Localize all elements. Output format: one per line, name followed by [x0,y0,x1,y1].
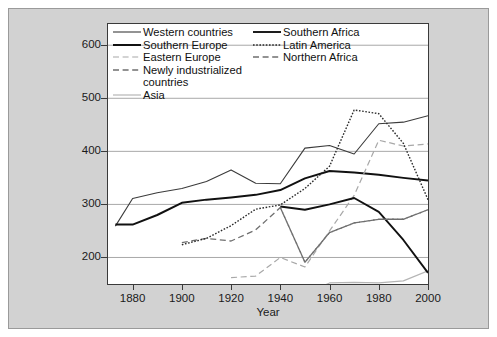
legend-entry[interactable]: Newly industrialized countries [113,64,258,89]
y-tick-label: 400 [82,146,101,158]
series-line [280,198,428,273]
x-tick-mark [182,285,183,290]
legend-label: Southern Europe [143,39,258,52]
legend-entry[interactable]: Southern Europe [113,39,258,52]
series-line [115,171,428,225]
legend-entry[interactable]: Asia [113,89,258,102]
legend-label: Eastern Europe [143,51,258,64]
y-tick-label: 300 [82,199,101,211]
y-tick-label: 600 [82,39,101,51]
x-tick-label: 1940 [268,293,294,305]
x-tick-mark [280,285,281,290]
legend-entry[interactable]: Southern Africa [253,26,413,39]
legend-entry[interactable]: Latin America [253,39,413,52]
x-tick-mark [133,285,134,290]
series-line [280,208,428,263]
x-tick-mark [379,285,380,290]
legend-label: Western countries [143,26,258,39]
x-tick-mark [330,285,331,290]
legend-entry[interactable]: Eastern Europe [113,51,258,64]
figure: 200300400500600 188019001920194019601980… [0,0,497,337]
legend-column-left: Western countriesSouthern EuropeEastern … [113,26,258,102]
x-tick-label: 1960 [317,293,343,305]
x-tick-mark [231,285,232,290]
legend-label: Latin America [283,39,413,52]
legend-label: Asia [143,89,258,102]
y-tick-label: 500 [82,93,101,105]
y-tick-label: 200 [82,252,101,264]
x-tick-label: 1880 [120,293,146,305]
legend-label: Southern Africa [283,26,413,39]
x-tick-mark [428,285,429,290]
x-tick-label: 2000 [415,293,441,305]
x-axis-tick-labels: 1880190019201940196019802000 [107,289,437,307]
series-line [115,116,428,226]
legend-column-right: Southern AfricaLatin AmericaNorthern Afr… [253,26,413,64]
legend-entry[interactable]: Western countries [113,26,258,39]
legend-entry[interactable]: Northern Africa [253,51,413,64]
figure-canvas: 200300400500600 188019001920194019601980… [8,8,489,329]
x-tick-label: 1980 [366,293,392,305]
x-axis-title: Year [107,306,429,318]
legend-label: Newly industrialized countries [143,64,258,89]
x-tick-label: 1920 [218,293,244,305]
series-line [182,208,428,263]
series-line [305,271,428,284]
legend-label: Northern Africa [283,51,413,64]
y-axis-tick-labels: 200300400500600 [61,23,101,285]
x-tick-label: 1900 [169,293,195,305]
